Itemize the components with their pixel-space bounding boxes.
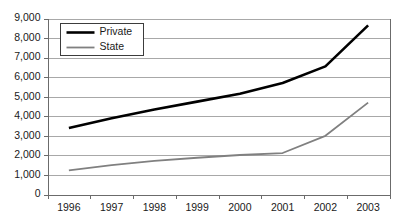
y-tick-label: 0 — [35, 187, 41, 199]
y-tick-label: 2,000 — [14, 148, 40, 160]
y-tick-label: 4,000 — [14, 109, 40, 121]
y-tick-label: 9,000 — [14, 11, 40, 23]
y-tick-label: 1,000 — [14, 168, 40, 180]
x-tick-label: 1999 — [185, 201, 209, 213]
x-tick-label: 2003 — [356, 201, 380, 213]
line-chart: 01,0002,0003,0004,0005,0006,0007,0008,00… — [0, 0, 402, 221]
x-tick-label: 2000 — [228, 201, 252, 213]
y-tick-label: 6,000 — [14, 70, 40, 82]
y-tick-label: 7,000 — [14, 50, 40, 62]
x-tick-label: 2001 — [271, 201, 295, 213]
y-tick-label: 8,000 — [14, 31, 40, 43]
y-tick-label: 5,000 — [14, 90, 40, 102]
x-tick-label: 1996 — [57, 201, 81, 213]
chart-canvas: 01,0002,0003,0004,0005,0006,0007,0008,00… — [0, 0, 402, 221]
y-axis-labels: 01,0002,0003,0004,0005,0006,0007,0008,00… — [14, 11, 40, 199]
y-tick-label: 3,000 — [14, 129, 40, 141]
y-axis-ticks — [44, 20, 48, 196]
x-tick-label: 1997 — [100, 201, 124, 213]
legend-label-state: State — [100, 40, 125, 52]
x-axis-labels: 19961997199819992000200120022003 — [57, 201, 380, 213]
legend-label-private: Private — [100, 25, 133, 37]
chart-legend: PrivateState — [61, 24, 144, 56]
x-tick-label: 2002 — [314, 201, 338, 213]
x-tick-label: 1998 — [143, 201, 167, 213]
